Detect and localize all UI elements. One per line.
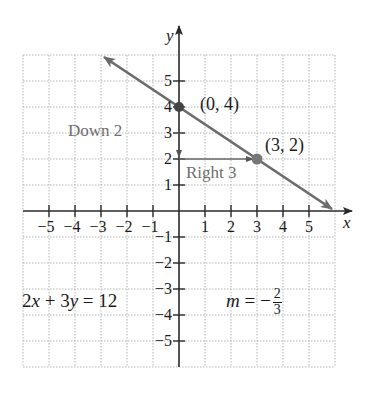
y-tick-label: 1 (160, 177, 172, 193)
y-tick-label: −5 (148, 333, 172, 349)
y-tick-label: 4 (160, 99, 172, 115)
x-tick-label: 2 (227, 219, 235, 235)
x-tick-label: 5 (305, 219, 313, 235)
x-tick-label: −4 (63, 219, 80, 235)
y-tick-label: −1 (148, 229, 172, 245)
equation-label: 2x + 3y = 12 (22, 291, 117, 310)
point-label-3-2: (3, 2) (265, 136, 304, 154)
y-tick-label: −3 (148, 281, 172, 297)
right-3-label: Right 3 (186, 164, 237, 181)
coordinate-plane (0, 0, 365, 393)
y-tick-label: 3 (160, 125, 172, 141)
y-tick-label: −4 (148, 307, 172, 323)
y-tick-label: −2 (148, 255, 172, 271)
point-0-4 (174, 102, 184, 112)
x-tick-label: −5 (37, 219, 54, 235)
y-tick-label: 2 (160, 151, 172, 167)
y-axis-label: y (166, 27, 174, 44)
down-2-label: Down 2 (68, 122, 122, 139)
x-axis-label: x (343, 214, 351, 231)
x-tick-label: 4 (279, 219, 287, 235)
slope-label: m = −23 (226, 287, 282, 317)
point-label-0-4: (0, 4) (200, 95, 239, 113)
x-tick-label: 1 (201, 219, 209, 235)
point-3-2 (252, 154, 263, 165)
axes (23, 26, 352, 367)
y-tick-label: 5 (160, 73, 172, 89)
x-tick-label: −2 (115, 219, 132, 235)
x-tick-label: 3 (253, 219, 261, 235)
x-tick-label: −3 (89, 219, 106, 235)
